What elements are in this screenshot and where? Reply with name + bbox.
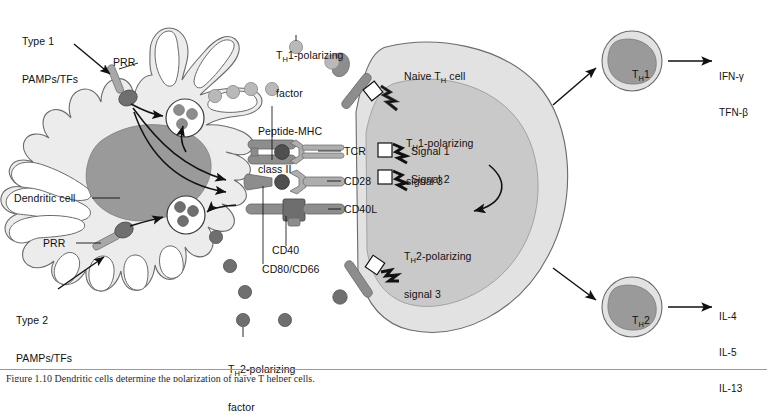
peptide-mhc-line2: class II [258, 163, 322, 176]
mhc-stem [251, 148, 258, 156]
cd40l-neck [288, 218, 300, 226]
arrow-to-th1 [553, 68, 596, 105]
granule [188, 206, 199, 217]
figure-caption: Figure 1.10 Dendritic cells determine th… [6, 373, 761, 382]
label-dendritic-cell: Dendritic cell [14, 192, 76, 205]
th2-signal3-line2: signal 3 [404, 288, 472, 301]
type1-line1: Type 1 [22, 35, 78, 48]
cytokine-item: TFN-β [719, 107, 748, 119]
cytokine-item: IL-13 [719, 383, 742, 395]
th1-cytokine-list: IFN-γ TFN-β [719, 47, 748, 143]
label-naive-th-cell: Naive TH cell [392, 57, 465, 95]
granule [178, 216, 189, 227]
label-tcr: TCR [344, 145, 366, 158]
label-signal1: Signal 1 [411, 145, 450, 158]
cytokine-item: IL-5 [719, 347, 742, 359]
dendrite-gap-2 [124, 255, 148, 290]
vesicle-top [166, 99, 204, 137]
bound-factor [333, 290, 347, 304]
dendrite-gap-1 [89, 256, 114, 291]
label-th1-signal3: TH1-polarizing signal 3 [406, 112, 474, 212]
label-cd40l: CD40L [344, 203, 377, 216]
type2-line2: PAMPs/TFs [16, 352, 72, 365]
label-peptide-mhc: Peptide-MHC class II [258, 100, 322, 200]
th1-factor-line2: factor [276, 87, 344, 100]
label-type1-pamps: Type 1 PAMPs/TFs [22, 10, 78, 110]
th2-factor-line2: factor [228, 401, 296, 414]
factor-dot [223, 259, 236, 272]
output-arrows [553, 61, 712, 307]
type1-arrow [74, 44, 110, 74]
vesicle-bottom [167, 196, 205, 234]
factor-dot [236, 313, 249, 326]
label-cd28: CD28 [344, 175, 371, 188]
cd40-cd40l-pair [246, 199, 345, 226]
peptide-mhc-line1: Peptide-MHC [258, 125, 322, 138]
label-prr-bottom: PRR [43, 237, 65, 250]
label-prr-top: PRR [113, 56, 135, 69]
factor-dot [226, 85, 239, 98]
label-th2-signal3: TH2-polarizing signal 3 [404, 225, 472, 325]
label-signal2: Signal 2 [411, 173, 450, 186]
arrow-to-th2 [553, 268, 596, 300]
label-cd80-cd66: CD80/CD66 [262, 263, 320, 276]
th2-cytokine-list: IL-4 IL-5 IL-13 [719, 287, 742, 415]
cytokine-item: IFN-γ [719, 71, 748, 83]
label-th1-cell: TH1 [620, 55, 650, 93]
factor-dot [278, 313, 291, 326]
factor-dot [209, 230, 222, 243]
type2-line1: Type 2 [16, 314, 72, 327]
granule [175, 202, 186, 213]
factor-dot [238, 285, 251, 298]
factor-dot [208, 89, 221, 102]
label-cd40: CD40 [272, 244, 299, 257]
th2-signal3-line1: TH2-polarizing [404, 250, 472, 263]
granule [174, 105, 185, 116]
cytokine-item: IL-4 [719, 311, 742, 323]
type1-line2: PAMPs/TFs [22, 73, 78, 86]
granule [187, 109, 198, 120]
caption-divider [0, 369, 767, 370]
th1-factor-line1: TH1-polarizing [276, 49, 344, 62]
factor-dot [244, 82, 257, 95]
label-th2-cell: TH2 [620, 301, 650, 339]
